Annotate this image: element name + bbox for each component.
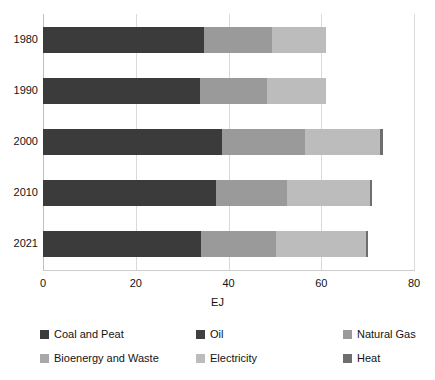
legend-swatch-icon	[196, 354, 205, 363]
bar-segment-heat-2021[interactable]	[366, 231, 368, 257]
bar-row-1980[interactable]	[43, 27, 326, 53]
y-tick-label-1980: 1980	[0, 34, 38, 45]
bar-segment-electricity-2021[interactable]	[276, 231, 366, 257]
legend-swatch-icon	[40, 354, 49, 363]
bar-row-2021[interactable]	[43, 231, 368, 257]
x-tick-label-60: 60	[315, 277, 327, 289]
bar-segment-natural-gas-1990[interactable]	[200, 78, 267, 104]
y-tick-label-2021: 2021	[0, 238, 38, 249]
bar-segment-natural-gas-1980[interactable]	[204, 27, 272, 53]
legend-label: Natural Gas	[357, 328, 416, 340]
legend-label: Electricity	[210, 352, 257, 364]
x-tick-label-0: 0	[40, 277, 46, 289]
bar-segment-coal-and-peat-2010[interactable]	[43, 180, 216, 206]
legend-item-coal-and-peat[interactable]: Coal and Peat	[40, 328, 124, 340]
y-axis-tick-labels: 19801990200020102021	[0, 14, 38, 270]
x-tick-label-40: 40	[222, 277, 234, 289]
bar-segment-natural-gas-2000[interactable]	[222, 129, 305, 155]
y-tick-label-2010: 2010	[0, 187, 38, 198]
legend-item-heat[interactable]: Heat	[343, 352, 380, 364]
plot-area	[43, 14, 414, 270]
x-axis-line	[43, 270, 415, 271]
legend-label: Oil	[210, 328, 223, 340]
bar-row-2000[interactable]	[43, 129, 383, 155]
bar-segment-electricity-2000[interactable]	[305, 129, 380, 155]
bar-segment-electricity-2010[interactable]	[287, 180, 370, 206]
legend-swatch-icon	[40, 330, 49, 339]
legend-label: Coal and Peat	[54, 328, 124, 340]
legend-item-electricity[interactable]: Electricity	[196, 352, 257, 364]
x-axis-title: EJ	[0, 296, 435, 308]
bar-segment-coal-and-peat-1980[interactable]	[43, 27, 204, 53]
legend-label: Heat	[357, 352, 380, 364]
bar-segment-natural-gas-2010[interactable]	[216, 180, 288, 206]
stacked-bar-chart: 19801990200020102021 020406080 EJ Coal a…	[0, 0, 435, 380]
bar-row-1990[interactable]	[43, 78, 326, 104]
bar-segment-electricity-1990[interactable]	[267, 78, 326, 104]
x-tick-label-20: 20	[130, 277, 142, 289]
bar-segment-coal-and-peat-1990[interactable]	[43, 78, 200, 104]
legend-label: Bioenergy and Waste	[54, 352, 159, 364]
bar-segment-electricity-1980[interactable]	[272, 27, 326, 53]
bar-segment-coal-and-peat-2000[interactable]	[43, 129, 222, 155]
y-tick-label-2000: 2000	[0, 136, 38, 147]
bar-segment-heat-2000[interactable]	[380, 129, 383, 155]
legend-swatch-icon	[343, 354, 352, 363]
x-axis-tick-labels: 020406080	[0, 277, 435, 293]
chart-legend: Coal and PeatOilNatural GasBioenergy and…	[0, 322, 435, 376]
legend-item-bioenergy-and-waste[interactable]: Bioenergy and Waste	[40, 352, 159, 364]
bar-segment-heat-2010[interactable]	[370, 180, 372, 206]
legend-swatch-icon	[196, 330, 205, 339]
bar-segment-coal-and-peat-2021[interactable]	[43, 231, 201, 257]
y-tick-label-1990: 1990	[0, 85, 38, 96]
gridline-80	[414, 14, 415, 270]
x-tick-label-80: 80	[408, 277, 420, 289]
legend-swatch-icon	[343, 330, 352, 339]
bar-segment-natural-gas-2021[interactable]	[201, 231, 276, 257]
legend-item-natural-gas[interactable]: Natural Gas	[343, 328, 416, 340]
legend-item-oil[interactable]: Oil	[196, 328, 223, 340]
bar-row-2010[interactable]	[43, 180, 372, 206]
